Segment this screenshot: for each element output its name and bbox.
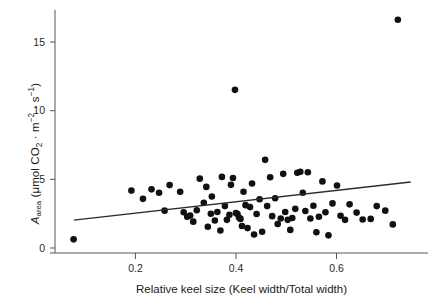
- x-tick-label: 0.4: [229, 262, 244, 274]
- data-point: [240, 188, 247, 195]
- trendline: [74, 182, 411, 220]
- figure-panel: 051015 0.20.40.6 Aarea (μmol CO2 · m−2 ·…: [0, 0, 436, 307]
- data-point: [219, 174, 226, 181]
- data-point: [334, 182, 341, 189]
- data-point: [292, 206, 299, 213]
- data-point: [205, 223, 212, 230]
- data-point: [353, 209, 360, 216]
- data-point: [228, 182, 235, 189]
- data-point: [259, 228, 266, 235]
- data-point: [329, 200, 336, 207]
- x-tick-label: 0.2: [128, 262, 143, 274]
- data-point: [319, 178, 326, 185]
- data-point: [190, 218, 197, 225]
- data-point: [177, 188, 184, 195]
- data-point: [262, 157, 269, 164]
- x-tick-group: 0.20.40.6: [128, 253, 344, 274]
- data-point: [346, 201, 353, 208]
- data-point: [187, 212, 194, 219]
- data-point: [251, 231, 258, 238]
- data-point: [212, 217, 219, 224]
- x-axis-label: Relative keel size (Keel width/Total wid…: [55, 283, 428, 295]
- data-point: [217, 227, 224, 234]
- y-tick-label: 10: [33, 104, 45, 116]
- data-point: [359, 216, 366, 223]
- data-point: [140, 196, 147, 203]
- data-point: [287, 227, 294, 234]
- scatter-plot-svg: 051015 0.20.40.6: [0, 0, 436, 307]
- data-point: [390, 221, 397, 228]
- y-tick-label: 5: [39, 173, 45, 185]
- data-point: [342, 217, 349, 224]
- data-point: [367, 216, 374, 223]
- data-point: [280, 171, 287, 178]
- data-point: [253, 211, 260, 218]
- data-point: [395, 17, 402, 24]
- data-point: [196, 175, 203, 182]
- data-point: [316, 213, 323, 220]
- data-point: [307, 215, 314, 222]
- data-point: [282, 209, 289, 216]
- data-point: [277, 215, 284, 222]
- y-tick-label: 15: [33, 36, 45, 48]
- data-point: [325, 232, 332, 239]
- data-point: [156, 190, 163, 197]
- data-point: [208, 210, 215, 217]
- data-point: [232, 87, 239, 94]
- data-point: [214, 209, 221, 216]
- data-point: [297, 168, 304, 175]
- data-point: [373, 203, 380, 210]
- data-point: [128, 187, 135, 194]
- data-point: [148, 186, 155, 193]
- data-point: [305, 169, 312, 176]
- data-point: [226, 211, 233, 218]
- data-point: [249, 180, 256, 187]
- data-point: [269, 213, 276, 220]
- data-point: [237, 216, 244, 223]
- data-point: [289, 215, 296, 222]
- data-point: [244, 225, 251, 232]
- y-tick-group: 051015: [33, 36, 55, 254]
- data-point: [267, 174, 274, 181]
- x-tick-label: 0.6: [329, 262, 344, 274]
- data-point: [264, 203, 271, 210]
- y-tick-label: 0: [39, 242, 45, 254]
- data-point: [313, 229, 320, 236]
- data-point: [70, 236, 77, 243]
- data-point: [193, 207, 200, 214]
- data-point: [230, 175, 237, 182]
- data-point: [382, 207, 389, 214]
- data-point: [203, 184, 210, 191]
- data-point: [247, 204, 254, 211]
- data-point: [322, 209, 329, 216]
- data-point: [310, 202, 317, 209]
- data-point: [302, 208, 309, 215]
- data-point: [166, 182, 173, 189]
- data-point: [209, 193, 216, 200]
- data-point-group: [70, 17, 401, 243]
